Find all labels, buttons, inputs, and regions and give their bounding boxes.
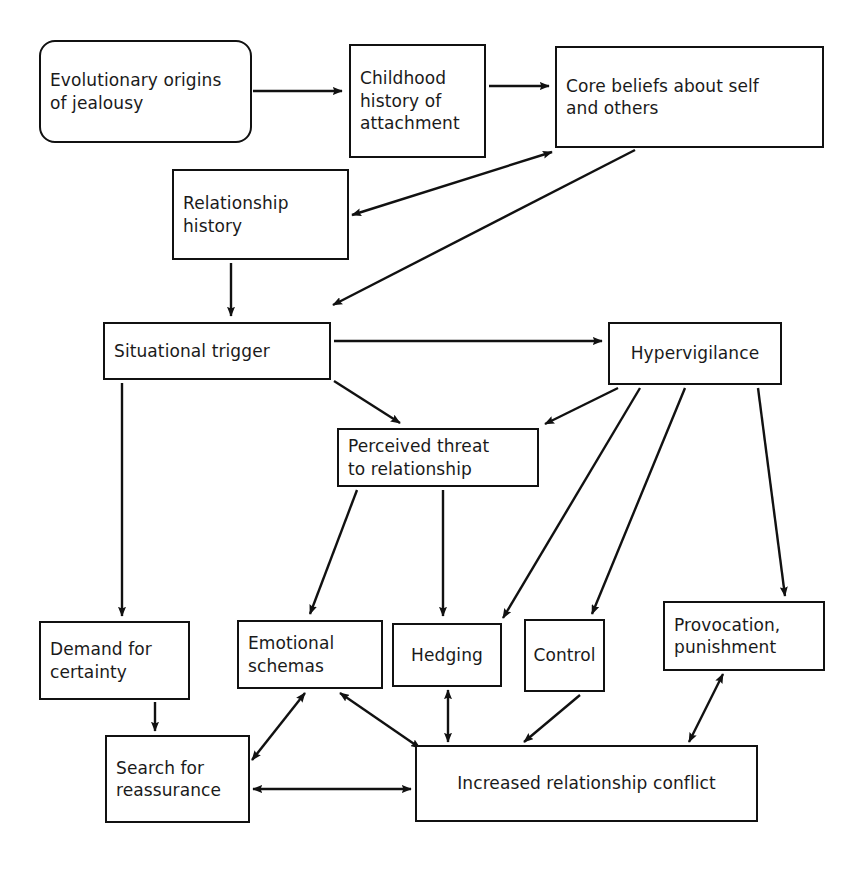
edge-hypervigilance-to-hedging (503, 388, 640, 618)
node-label: Evolutionary origins of jealousy (50, 69, 221, 114)
edge-perceived-to-emotional (310, 490, 357, 614)
edge-hypervigilance-to-provocation (758, 388, 785, 596)
node-provocation-punishment[interactable]: Provocation, punishment (663, 601, 825, 671)
node-situational-trigger[interactable]: Situational trigger (103, 322, 331, 380)
edge-provocation-to-conflict (689, 674, 723, 742)
edge-hypervigilance-to-perceived (545, 388, 618, 424)
node-label: Hedging (411, 644, 483, 666)
node-label: Relationship history (183, 192, 289, 237)
node-label: Situational trigger (114, 340, 270, 362)
edge-emotional-to-conflict (340, 693, 420, 748)
node-core-beliefs[interactable]: Core beliefs about self and others (555, 46, 824, 148)
node-label: Perceived threat to relationship (348, 435, 489, 480)
node-label: Childhood history of attachment (360, 67, 460, 134)
node-childhood-history[interactable]: Childhood history of attachment (349, 44, 486, 158)
node-hedging[interactable]: Hedging (392, 623, 502, 687)
node-relationship-history[interactable]: Relationship history (172, 169, 349, 260)
node-increased-relationship-conflict[interactable]: Increased relationship conflict (415, 745, 758, 822)
node-label: Emotional schemas (248, 632, 334, 677)
edge-sit_trigger-to-perceived (334, 381, 400, 423)
node-label: Demand for certainty (50, 638, 152, 683)
node-label: Provocation, punishment (674, 614, 780, 659)
node-label: Core beliefs about self and others (566, 75, 759, 120)
edge-rel_history-to-core_beliefs (352, 152, 552, 215)
edge-core_beliefs-to-sit_trigger (333, 150, 635, 305)
node-label: Hypervigilance (631, 342, 760, 364)
edge-hypervigilance-to-control (592, 388, 685, 614)
node-label: Search for reassurance (116, 757, 221, 802)
node-label: Increased relationship conflict (457, 772, 716, 794)
node-label: Control (533, 644, 595, 666)
node-search-for-reassurance[interactable]: Search for reassurance (105, 735, 250, 823)
node-evolutionary-origins[interactable]: Evolutionary origins of jealousy (39, 40, 252, 143)
node-perceived-threat[interactable]: Perceived threat to relationship (337, 428, 539, 487)
node-control[interactable]: Control (524, 619, 605, 692)
flowchart-canvas: Evolutionary origins of jealousy Childho… (0, 0, 866, 872)
edge-emotional-to-search (252, 693, 305, 760)
edge-control-to-conflict (524, 695, 580, 742)
node-hypervigilance[interactable]: Hypervigilance (608, 322, 782, 385)
node-emotional-schemas[interactable]: Emotional schemas (237, 620, 383, 689)
node-demand-for-certainty[interactable]: Demand for certainty (39, 621, 190, 700)
